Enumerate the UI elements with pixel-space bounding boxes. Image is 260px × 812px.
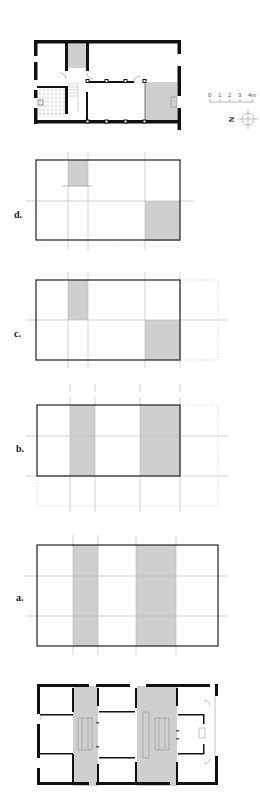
diagram-label-b: b. [16,443,25,454]
diagram-d: d. [14,152,194,250]
diagram-c: c. [14,272,228,392]
north-letter: N [228,117,235,122]
shaded-band-2 [140,405,180,476]
shaded-band-1 [73,545,98,646]
shaded-bay-upper [68,160,88,186]
north-arrow-icon: N [228,109,258,129]
grid-lines [26,397,228,512]
shaded-right-room [145,82,177,120]
scale-tick-1: 1 [218,92,222,98]
scale-tick-3: 3 [238,92,242,98]
sink-fixture [38,100,43,105]
diagram-label-a: a. [16,592,24,603]
shaded-band-1 [70,405,95,476]
diagram-b: b. [16,397,228,512]
scale-tick-2: 2 [228,92,232,98]
diagram-outline [37,545,218,646]
exterior-walls [37,684,218,785]
shaded-quadrant-lower-right [145,320,180,360]
grid-lines [24,535,228,655]
shaded-circulation-band-1 [73,686,98,786]
columns [86,80,146,124]
stair-treads [68,82,78,112]
tick-marks [70,384,180,392]
diagram-a: a. [16,535,228,655]
figure-canvas: 0 1 2 3 4m N d. [0,0,260,812]
diagram-label-d: d. [14,209,23,220]
shaded-stair-room [66,44,88,68]
shaded-quadrant-lower-right [145,201,180,241]
hatched-bathroom [38,88,65,118]
scale-bar: 0 1 2 3 4m [208,92,256,102]
diagram-label-c: c. [14,328,21,339]
scale-tick-4: 4m [248,92,256,98]
grid-lines [26,272,228,368]
interior-walls [40,688,205,782]
final-floor-plan [37,684,218,786]
shaded-bay-upper [68,280,88,320]
dotted-extension [37,405,218,506]
scale-tick-0: 0 [208,92,212,98]
shaded-band-2 [136,545,176,646]
existing-floor-plan [34,40,181,130]
